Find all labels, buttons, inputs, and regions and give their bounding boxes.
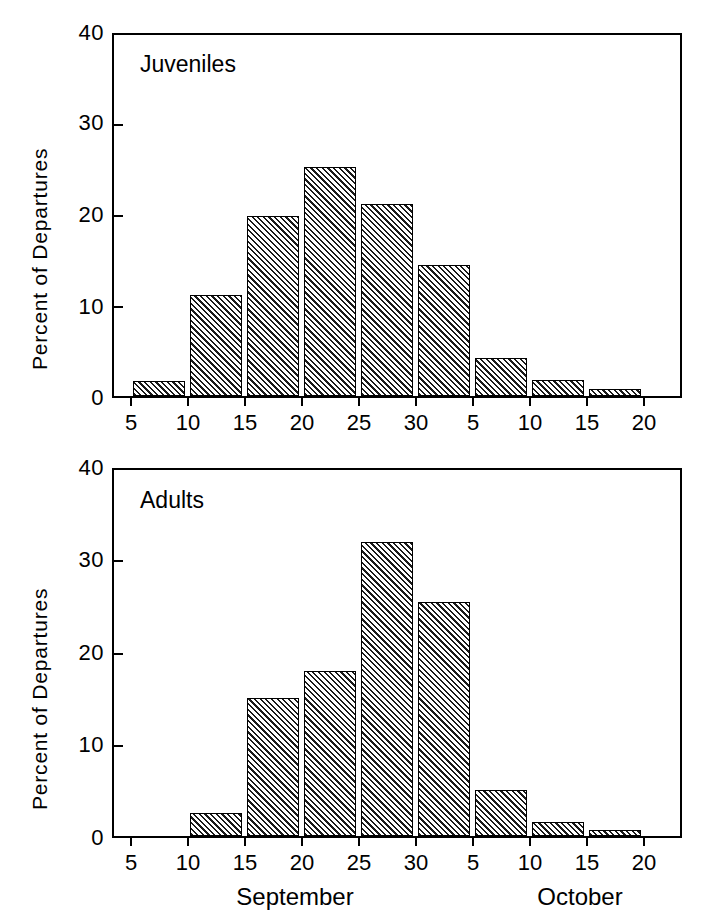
x-tick-label-sep-15-adults: 15 [225, 852, 265, 874]
bar-adults-sep-25-30 [361, 542, 413, 836]
x-tick-label-sep-5-adults: 5 [111, 852, 151, 874]
x-tick-sep-15-adults [244, 837, 246, 846]
x-tick-sep-30-adults [415, 837, 417, 846]
x-tick-sep-25-adults [358, 837, 360, 846]
x-tick-oct-5-adults [472, 837, 474, 846]
bar-adults-sep30-oct05 [418, 602, 470, 836]
y-axis-label-adults: Percent of Departures [28, 588, 52, 810]
x-tick-oct-15-adults [586, 837, 588, 846]
y-tick-label-20-adults: 20 [58, 642, 104, 664]
panel-title-adults: Adults [140, 489, 204, 512]
plot-area-adults: Adults [112, 468, 682, 838]
panel-adults: Percent of Departures 40 30 20 10 0 Adul… [0, 0, 707, 920]
bars-adults [114, 470, 680, 836]
y-tick-label-40-adults: 40 [58, 457, 104, 479]
x-tick-sep-10-adults [187, 837, 189, 846]
y-tick-label-10-adults: 10 [58, 734, 104, 756]
x-tick-label-sep-25-adults: 25 [339, 852, 379, 874]
bar-adults-oct-15-20 [589, 830, 641, 836]
x-axis-month-label-september: September [215, 885, 375, 909]
x-tick-label-oct-5-adults: 5 [453, 852, 493, 874]
bar-adults-sep-15-20 [247, 698, 299, 836]
x-tick-label-sep-30-adults: 30 [396, 852, 436, 874]
x-tick-sep-5-adults [130, 837, 132, 846]
x-tick-label-oct-15-adults: 15 [567, 852, 607, 874]
x-tick-oct-20-adults [643, 837, 645, 846]
x-tick-label-oct-20-adults: 20 [624, 852, 664, 874]
bar-adults-sep-10-15 [190, 813, 242, 836]
y-tick-label-30-adults: 30 [58, 549, 104, 571]
bar-adults-oct-05-10 [475, 790, 527, 836]
x-axis-month-label-october: October [510, 885, 650, 909]
x-tick-label-sep-20-adults: 20 [282, 852, 322, 874]
x-tick-label-sep-10-adults: 10 [168, 852, 208, 874]
x-tick-oct-10-adults [529, 837, 531, 846]
figure-container: Percent of Departures 40 30 20 10 0 Juve… [0, 0, 707, 920]
x-tick-sep-20-adults [301, 837, 303, 846]
y-tick-label-0-adults: 0 [58, 827, 104, 849]
x-tick-label-oct-10-adults: 10 [510, 852, 550, 874]
bar-adults-sep-20-25 [304, 671, 356, 836]
bar-adults-oct-10-15 [532, 822, 584, 836]
